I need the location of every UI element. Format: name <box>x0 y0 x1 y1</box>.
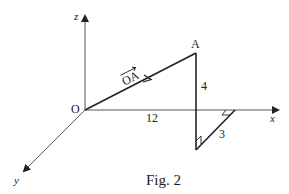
vector-oa-label: OA <box>120 68 142 88</box>
z-axis-label: z <box>73 10 79 22</box>
x-length-label: 12 <box>146 111 158 125</box>
right-angle-marker-icon <box>222 110 230 115</box>
y-component-line <box>196 110 235 150</box>
vector-diagram: z x y O OA A 4 3 12 Fig. 2 <box>0 0 289 194</box>
vector-oa <box>85 53 196 110</box>
y-length-label: 3 <box>219 127 225 141</box>
y-axis <box>24 110 85 171</box>
origin-label: O <box>71 102 80 116</box>
y-axis-label: y <box>13 174 19 186</box>
x-axis-label: x <box>269 112 275 124</box>
vector-oa-label-group: OA <box>119 66 142 88</box>
vertical-length-label: 4 <box>201 79 207 93</box>
point-a-label: A <box>191 37 200 51</box>
figure-caption: Fig. 2 <box>146 172 181 188</box>
